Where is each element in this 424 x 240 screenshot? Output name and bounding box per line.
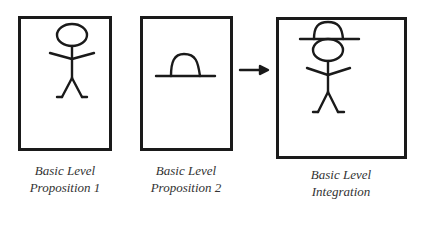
caption-line-2: Proposition 2: [131, 179, 241, 196]
hat-icon: [156, 54, 215, 76]
caption-line-2: Integration: [286, 183, 396, 200]
caption-line-1: Basic Level: [286, 166, 396, 183]
caption-integration: Basic Level Integration: [286, 166, 396, 200]
caption-line-1: Basic Level: [131, 162, 241, 179]
caption-proposition-1: Basic Level Proposition 1: [10, 162, 120, 196]
stick-figure-with-hat-icon: [300, 22, 359, 112]
right-arrow-icon: [240, 66, 268, 74]
caption-line-2: Proposition 1: [10, 179, 120, 196]
caption-proposition-2: Basic Level Proposition 2: [131, 162, 241, 196]
stick-figure-icon: [50, 24, 94, 97]
caption-line-1: Basic Level: [10, 162, 120, 179]
